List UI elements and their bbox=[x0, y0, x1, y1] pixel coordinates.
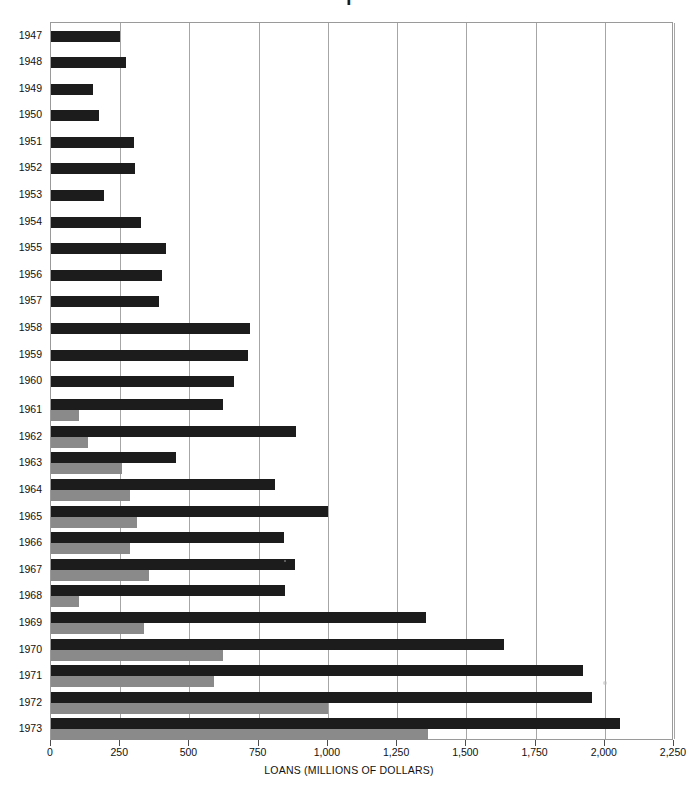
year-group bbox=[51, 502, 672, 529]
bars-container bbox=[51, 23, 672, 739]
year-group bbox=[51, 262, 672, 289]
y-axis-label-1961: 1961 bbox=[19, 404, 42, 415]
bar-total-loans bbox=[51, 376, 234, 387]
year-group bbox=[51, 528, 672, 555]
x-axis-tick-label: 2,250 bbox=[660, 746, 686, 758]
year-group bbox=[51, 183, 672, 210]
bar-total-loans bbox=[51, 426, 296, 437]
bar-total-loans bbox=[51, 639, 504, 650]
bar-total-loans bbox=[51, 57, 126, 68]
y-axis-label-1949: 1949 bbox=[19, 83, 42, 94]
x-axis-tick-label: 1,500 bbox=[452, 746, 478, 758]
bar-total-loans bbox=[51, 506, 328, 517]
y-axis-label-1963: 1963 bbox=[19, 457, 42, 468]
year-group bbox=[51, 448, 672, 475]
bar-total-loans bbox=[51, 399, 223, 410]
year-group bbox=[51, 236, 672, 263]
year-group bbox=[51, 209, 672, 236]
bar-total-loans bbox=[51, 479, 275, 490]
bar-total-loans bbox=[51, 532, 284, 543]
y-axis-label-1969: 1969 bbox=[19, 617, 42, 628]
y-axis-label-1970: 1970 bbox=[19, 644, 42, 655]
year-group bbox=[51, 129, 672, 156]
y-axis-label-1971: 1971 bbox=[19, 670, 42, 681]
y-axis-label-1968: 1968 bbox=[19, 590, 42, 601]
y-axis-label-1952: 1952 bbox=[19, 162, 42, 173]
y-axis-label-1958: 1958 bbox=[19, 322, 42, 333]
bar-total-loans bbox=[51, 31, 120, 42]
bar-total-loans bbox=[51, 190, 104, 201]
bar-second-component bbox=[51, 517, 137, 528]
year-group bbox=[51, 156, 672, 183]
bar-total-loans bbox=[51, 350, 248, 361]
year-group bbox=[51, 369, 672, 396]
bar-total-loans bbox=[51, 323, 250, 334]
x-axis-tick-label: 2,000 bbox=[591, 746, 617, 758]
year-group bbox=[51, 316, 672, 343]
y-axis-label-1947: 1947 bbox=[19, 30, 42, 41]
y-axis-label-1959: 1959 bbox=[19, 349, 42, 360]
bar-total-loans bbox=[51, 243, 166, 254]
year-group bbox=[51, 395, 672, 422]
bar-total-loans bbox=[51, 137, 134, 148]
x-axis-tick-label: 1,250 bbox=[383, 746, 409, 758]
x-axis-tick-label: 0 bbox=[47, 746, 53, 758]
x-axis-title: LOANS (MILLIONS OF DOLLARS) bbox=[0, 764, 698, 776]
bar-second-component bbox=[51, 570, 149, 581]
y-axis-label-1954: 1954 bbox=[19, 216, 42, 227]
year-group bbox=[51, 688, 672, 715]
year-group bbox=[51, 23, 672, 50]
y-axis-label-1953: 1953 bbox=[19, 189, 42, 200]
y-axis-label-1956: 1956 bbox=[19, 269, 42, 280]
y-axis-label-1960: 1960 bbox=[19, 375, 42, 386]
y-axis-label-1962: 1962 bbox=[19, 431, 42, 442]
x-axis-tick-label: 750 bbox=[249, 746, 267, 758]
bar-second-component bbox=[51, 463, 122, 474]
bar-second-component bbox=[51, 676, 214, 687]
y-axis-label-1955: 1955 bbox=[19, 242, 42, 253]
bar-second-component bbox=[51, 410, 79, 421]
chart-figure: I 19471948194919501951195219531954195519… bbox=[0, 0, 698, 785]
plot-area bbox=[50, 22, 673, 740]
bar-second-component bbox=[51, 437, 88, 448]
year-group bbox=[51, 581, 672, 608]
y-axis-label-1965: 1965 bbox=[19, 511, 42, 522]
bar-total-loans bbox=[51, 270, 162, 281]
year-group bbox=[51, 555, 672, 582]
bar-total-loans bbox=[51, 665, 583, 676]
y-axis-label-1964: 1964 bbox=[19, 484, 42, 495]
year-group bbox=[51, 714, 672, 741]
year-group bbox=[51, 76, 672, 103]
year-group bbox=[51, 342, 672, 369]
bar-total-loans bbox=[51, 692, 592, 703]
y-axis-label-1950: 1950 bbox=[19, 109, 42, 120]
y-axis-labels: 1947194819491950195119521953195419551956… bbox=[0, 22, 46, 740]
scan-speck bbox=[284, 560, 286, 562]
y-axis-label-1966: 1966 bbox=[19, 537, 42, 548]
bar-second-component bbox=[51, 650, 223, 661]
scan-speck bbox=[603, 681, 607, 685]
bar-total-loans bbox=[51, 84, 93, 95]
year-group bbox=[51, 475, 672, 502]
chart-title-fragment: I bbox=[0, 0, 698, 5]
bar-second-component bbox=[51, 490, 130, 501]
bar-total-loans bbox=[51, 612, 426, 623]
bar-second-component bbox=[51, 703, 328, 714]
x-axis-tick-label: 1,750 bbox=[521, 746, 547, 758]
y-axis-label-1948: 1948 bbox=[19, 56, 42, 67]
bar-total-loans bbox=[51, 163, 135, 174]
year-group bbox=[51, 635, 672, 662]
y-axis-label-1973: 1973 bbox=[19, 723, 42, 734]
y-axis-label-1972: 1972 bbox=[19, 697, 42, 708]
bar-total-loans bbox=[51, 718, 620, 729]
y-axis-label-1957: 1957 bbox=[19, 295, 42, 306]
x-axis-tick-labels: 02505007501,0001,2501,5001,7502,0002,250 bbox=[0, 746, 698, 760]
bar-total-loans bbox=[51, 452, 176, 463]
bar-total-loans bbox=[51, 559, 295, 570]
year-group bbox=[51, 422, 672, 449]
x-axis-tick-label: 500 bbox=[180, 746, 198, 758]
y-axis-label-1967: 1967 bbox=[19, 564, 42, 575]
bar-total-loans bbox=[51, 217, 141, 228]
y-axis-label-1951: 1951 bbox=[19, 136, 42, 147]
bar-second-component bbox=[51, 623, 144, 634]
